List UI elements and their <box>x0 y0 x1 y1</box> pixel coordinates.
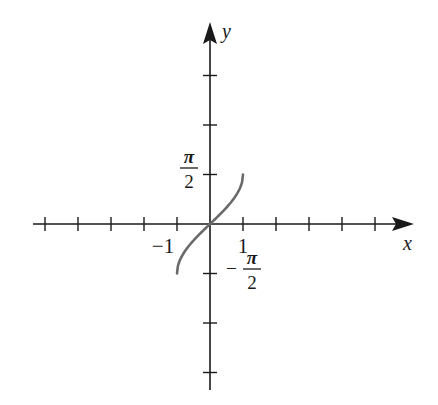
two-denominator: 2 <box>184 171 194 192</box>
y-axis <box>203 22 217 390</box>
minus-sign: − <box>226 258 237 279</box>
pi-numerator: π <box>184 146 195 167</box>
x-axis <box>33 217 414 231</box>
two-denominator: 2 <box>247 272 257 293</box>
x-tick-label-neg-one: −1 <box>152 234 174 258</box>
pi-numerator: π <box>247 247 258 268</box>
y-axis-label: y <box>220 20 231 43</box>
y-tick-label-pi-over-2: π 2 <box>180 146 198 192</box>
arcsin-chart: y x −1 1 π 2 − π 2 <box>0 0 438 405</box>
x-axis-label: x <box>402 232 412 254</box>
